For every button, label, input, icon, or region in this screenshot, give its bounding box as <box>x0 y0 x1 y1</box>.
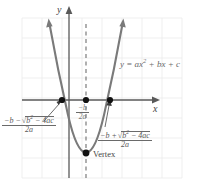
left-root-radicand-rest: − 4ac <box>35 116 54 125</box>
left-root-denominator: 2a <box>2 126 56 134</box>
right-root-fraction: −b +√b2 − 4ac 2a <box>98 130 152 149</box>
left-root-radical-icon: √b2 − 4ac <box>21 115 54 125</box>
right-root-denominator: 2a <box>98 141 152 149</box>
parabola-left-arrow-icon <box>46 19 52 28</box>
right-root-radical-icon: √b2 − 4ac <box>117 130 150 140</box>
point-right-root <box>107 97 113 103</box>
right-root-numerator: −b +√b2 − 4ac <box>98 130 152 141</box>
equation-exponent: 2 <box>143 57 146 64</box>
left-root-numerator: −b −√b2 − 4ac <box>2 115 56 126</box>
quadratic-graph-figure: y x y = ax2 + bx + c −b 2a −b −√b2 − 4ac… <box>0 0 200 188</box>
vertex-label: Vertex <box>93 150 115 159</box>
parabola-right-arrow-icon <box>119 19 125 28</box>
axis-of-symmetry-fraction: −b 2a <box>76 104 89 120</box>
equation-y: y <box>120 59 124 69</box>
right-root-label: −b +√b2 − 4ac 2a <box>98 130 152 149</box>
right-root-radicand-rest: − 4ac <box>131 131 150 140</box>
y-axis-arrow-icon <box>66 6 73 14</box>
graph-canvas <box>0 0 200 188</box>
left-root-numerator-lead: −b − <box>4 116 21 125</box>
equation-equals: = <box>126 59 132 69</box>
equation-label: y = ax2 + bx + c <box>120 58 180 69</box>
axis-of-symmetry-label: −b 2a <box>76 104 89 120</box>
x-axis-label: x <box>153 104 157 114</box>
left-root-label: −b −√b2 − 4ac 2a <box>2 115 56 134</box>
y-axis <box>66 6 73 178</box>
point-left-root <box>59 97 65 103</box>
y-axis-label: y <box>57 5 61 15</box>
equation-leading-term: ax <box>135 59 144 69</box>
point-vertex <box>83 150 90 157</box>
left-root-fraction: −b −√b2 − 4ac 2a <box>2 115 56 134</box>
right-root-numerator-lead: −b + <box>100 131 117 140</box>
equation-remaining-terms: + bx + c <box>149 59 180 69</box>
axis-of-symmetry-denominator: 2a <box>76 113 89 121</box>
